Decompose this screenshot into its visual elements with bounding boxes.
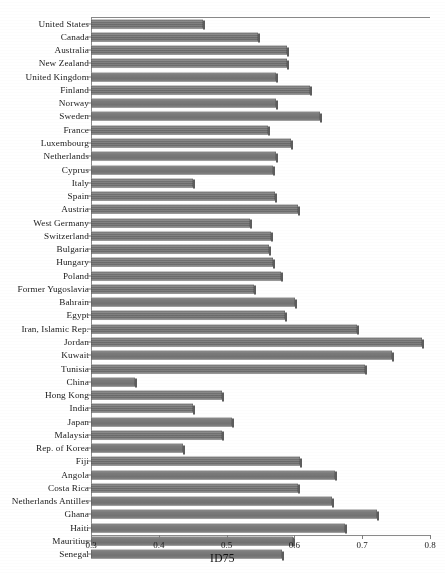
bar <box>91 338 422 347</box>
bar <box>91 271 281 280</box>
bar-row: Tunisia <box>0 362 445 375</box>
bar-row: New Zealand <box>0 57 445 70</box>
bar-container <box>91 32 258 41</box>
bar-row: Netherlands Antilles <box>0 495 445 508</box>
x-axis: ID75 0.30.40.50.60.70.8 <box>0 535 445 573</box>
bar <box>91 417 232 426</box>
x-axis-tick-label: 0.5 <box>221 540 232 550</box>
bar-container <box>91 152 276 161</box>
bar <box>91 19 203 28</box>
bar <box>91 523 345 532</box>
category-label: Spain <box>68 191 89 201</box>
category-label: Switzerland <box>44 231 89 241</box>
bar-row: United States <box>0 17 445 30</box>
bar <box>91 444 183 453</box>
category-label: Austria <box>61 204 89 214</box>
bar-container <box>91 125 268 134</box>
category-label: Netherlands Antilles <box>12 496 89 506</box>
x-axis-tick-label: 0.6 <box>289 540 300 550</box>
category-label: Hong Kong <box>45 390 89 400</box>
bar <box>91 192 275 201</box>
x-axis-tick <box>227 535 228 539</box>
bar-row: India <box>0 402 445 415</box>
bar-row: China <box>0 375 445 388</box>
category-label: Kuwait <box>61 350 89 360</box>
bar-container <box>91 510 377 519</box>
bar-row: Switzerland <box>0 229 445 242</box>
bar-row: Iran, Islamic Rep. <box>0 322 445 335</box>
bar <box>91 245 269 254</box>
bar-container <box>91 139 291 148</box>
bar <box>91 112 320 121</box>
bar-container <box>91 85 310 94</box>
bar-container <box>91 377 135 386</box>
category-label: Norway <box>59 98 89 108</box>
bar-row: Haiti <box>0 521 445 534</box>
bar-container <box>91 284 254 293</box>
x-axis-tick-label: 0.3 <box>85 540 96 550</box>
x-axis-tick-label: 0.8 <box>424 540 435 550</box>
bar-row: Japan <box>0 415 445 428</box>
category-label: Poland <box>63 271 89 281</box>
category-label: Ghana <box>65 509 89 519</box>
bar-row: Poland <box>0 269 445 282</box>
bar <box>91 364 365 373</box>
bar <box>91 218 250 227</box>
bar <box>91 457 300 466</box>
category-label: Sweden <box>59 111 89 121</box>
bar-row: Luxembourg <box>0 136 445 149</box>
bar-row: France <box>0 123 445 136</box>
bar <box>91 139 291 148</box>
bar <box>91 298 295 307</box>
category-label: Japan <box>68 417 89 427</box>
bar <box>91 205 298 214</box>
x-axis-tick <box>91 535 92 539</box>
bar-container <box>91 271 281 280</box>
category-label: Finland <box>60 85 89 95</box>
bar-container <box>91 430 222 439</box>
category-label: China <box>67 377 89 387</box>
bar-row: Italy <box>0 176 445 189</box>
bar-row: Rep. of Korea <box>0 442 445 455</box>
bar <box>91 59 287 68</box>
category-label: New Zealand <box>39 58 89 68</box>
bar <box>91 46 287 55</box>
category-label: Angola <box>61 470 89 480</box>
bar <box>91 178 193 187</box>
bar-row: Kuwait <box>0 349 445 362</box>
bar-row: West Germany <box>0 216 445 229</box>
bar-container <box>91 46 287 55</box>
bar-row: Egypt <box>0 309 445 322</box>
bar-row: Ghana <box>0 508 445 521</box>
x-axis-tick <box>362 535 363 539</box>
category-label: Egypt <box>67 310 89 320</box>
bar-container <box>91 404 193 413</box>
bar-row: Hong Kong <box>0 388 445 401</box>
category-label: Bahrain <box>59 297 89 307</box>
category-label: Cyprus <box>62 165 89 175</box>
category-label: Former Yugoslavia <box>17 284 89 294</box>
bar-container <box>91 324 357 333</box>
bar <box>91 125 268 134</box>
category-label: Iran, Islamic Rep. <box>21 324 89 334</box>
bar-row: Former Yugoslavia <box>0 282 445 295</box>
bar <box>91 324 357 333</box>
bar-container <box>91 192 275 201</box>
category-label: Bulgaria <box>57 244 89 254</box>
bar-container <box>91 338 422 347</box>
bar-row: Angola <box>0 468 445 481</box>
category-label: West Germany <box>33 218 89 228</box>
bar <box>91 404 193 413</box>
category-label: Malaysia <box>55 430 89 440</box>
bar-row: Sweden <box>0 110 445 123</box>
category-label: Rep. of Korea <box>36 443 89 453</box>
bar <box>91 99 276 108</box>
bar-container <box>91 59 287 68</box>
bar-container <box>91 483 298 492</box>
bar-container <box>91 457 300 466</box>
category-label: Tunisia <box>61 364 89 374</box>
x-axis-tick <box>294 535 295 539</box>
x-axis-tick <box>430 535 431 539</box>
bar-container <box>91 245 269 254</box>
x-axis-tick-label: 0.7 <box>357 540 368 550</box>
